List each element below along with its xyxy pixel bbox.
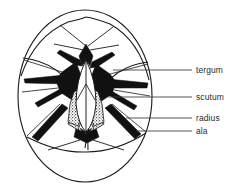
label-scutum: scutum: [196, 92, 224, 102]
label-tergum: tergum: [196, 65, 223, 75]
label-ala: ala: [196, 126, 208, 136]
label-radius: radius: [196, 113, 220, 123]
figure-page: tergum scutum radius ala: [0, 0, 241, 194]
